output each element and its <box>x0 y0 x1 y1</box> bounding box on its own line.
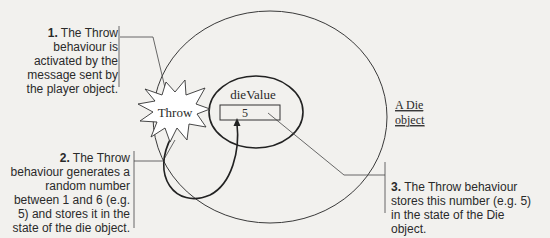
note-3-number: 3. <box>391 180 401 194</box>
callout-line-3 <box>268 113 385 175</box>
note-1-text: The Throw behaviour is activated by the … <box>27 26 118 96</box>
object-label-line1: A Die <box>395 98 423 112</box>
note-1-number: 1. <box>48 26 58 40</box>
note-3: 3. The Throw behaviour stores this numbe… <box>391 180 541 236</box>
object-label-line2: object <box>395 113 425 127</box>
note-2: 2. The Throw behaviour generates a rando… <box>8 151 130 235</box>
attribute-name: dieValue <box>230 87 276 102</box>
note-2-text: The Throw behaviour generates a random n… <box>11 151 130 235</box>
note-1: 1. The Throw behaviour is activated by t… <box>8 26 118 96</box>
throw-behaviour-label: Throw <box>158 105 193 120</box>
attribute-value: 5 <box>242 106 248 120</box>
arrow-head-icon <box>234 118 241 126</box>
attribute-value-box <box>220 105 280 120</box>
note-3-text: The Throw behaviour stores this number (… <box>391 180 531 236</box>
loop-arrow <box>164 124 238 199</box>
note-2-number: 2. <box>60 151 70 165</box>
